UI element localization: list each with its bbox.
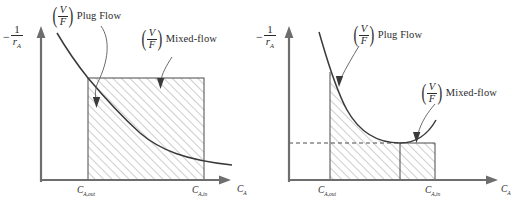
x-axis-arrow-right: [486, 176, 498, 185]
annotation-plug-flow-right: ( V F ) Plug Flow: [352, 24, 422, 46]
mixed-flow-leader-left: [161, 57, 172, 80]
y-axis-label-right: − 1 rA: [256, 24, 276, 50]
annotation-mixed-flow-right: ( V F ) Mixed-flow: [420, 82, 497, 104]
y-axis-label-left: − 1 rA: [3, 24, 23, 50]
x-tick-label-in-left: CA,in: [192, 186, 207, 197]
annotation-mixed-flow-left: ( V F ) Mixed-flow: [140, 28, 217, 50]
left-paren-icon: (: [353, 26, 358, 45]
y-axis-arrow-right: [285, 26, 294, 38]
right-paren-icon: ): [438, 84, 443, 103]
right-paren-icon: ): [370, 26, 375, 45]
plug-flow-leader-right: [341, 46, 359, 78]
x-axis-title-left: CA: [237, 185, 247, 196]
y-axis-arrow-left: [37, 26, 46, 38]
x-tick-label-out-right: CA,out: [318, 186, 336, 197]
mixed-flow-area-left: [88, 78, 204, 180]
right-paren-icon: ): [69, 7, 74, 26]
x-tick-label-out-left: CA,out: [77, 186, 95, 197]
x-tick-label-in-right: CA,in: [425, 186, 440, 197]
right-paren-icon: ): [158, 30, 163, 49]
plug-flow-area-right: [330, 72, 400, 180]
left-paren-icon: (: [421, 84, 426, 103]
left-paren-icon: (: [141, 30, 146, 49]
mixed-flow-leader-right: [418, 104, 435, 134]
annotation-plug-flow-left: ( V F ) Plug Flow: [51, 5, 121, 27]
x-axis-title-right: CA: [501, 185, 511, 196]
x-axis-arrow-left: [219, 176, 231, 185]
mixed-flow-area-right: [400, 143, 435, 180]
left-paren-icon: (: [52, 7, 57, 26]
